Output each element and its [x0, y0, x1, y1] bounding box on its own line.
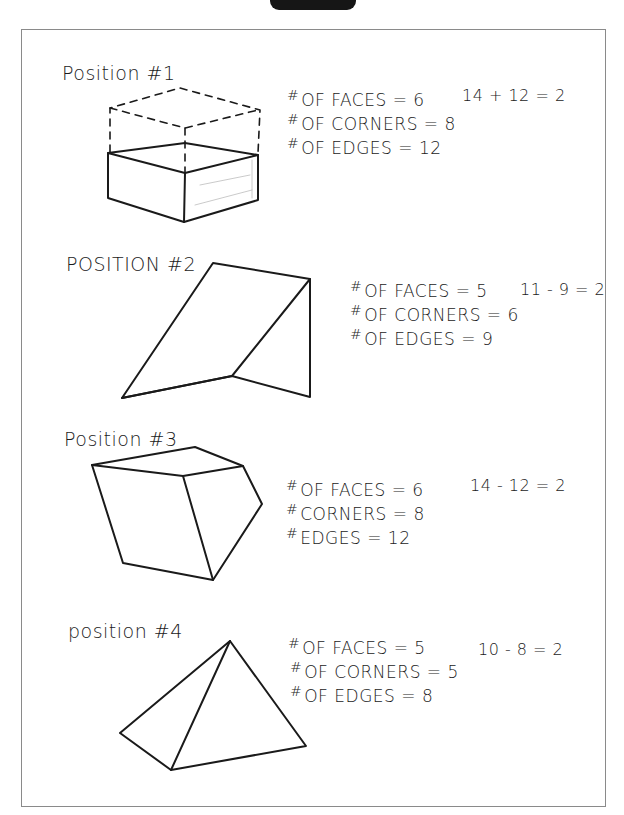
position-4-corners: #OF CORNERS = 5 [290, 656, 459, 683]
position-4-edges: #OF EDGES = 8 [290, 680, 433, 707]
position-4-euler-calc: 10 - 8 = 2 [478, 640, 563, 659]
position-4-faces: #OF FACES = 5 [288, 632, 426, 659]
